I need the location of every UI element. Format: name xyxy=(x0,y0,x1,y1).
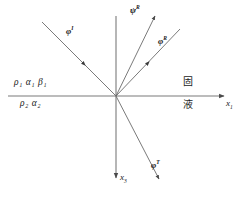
lower-medium-properties: ρ₂ α₂ xyxy=(20,99,41,109)
ray-reflected-shear-line xyxy=(116,16,155,96)
liquid-phase-label: 液 xyxy=(183,100,193,110)
ray-incident-line xyxy=(42,22,116,96)
ray-label-transmitted: φT xyxy=(151,161,160,170)
upper-medium-properties: ρ₁ α₁ β₁ xyxy=(14,78,47,88)
ray-label-reflected-shear: ψR xyxy=(130,6,140,15)
ray-reflected-longitudinal-line xyxy=(116,29,180,96)
wave-interface-diagram: φI ψR φR φT x1 x3 ρ₁ α₁ β₁ ρ₂ α₂ 固 液 xyxy=(0,0,245,201)
ray-label-incident: φI xyxy=(66,27,73,36)
solid-phase-label: 固 xyxy=(183,77,193,87)
x3-axis-label: x3 xyxy=(120,173,127,182)
ray-label-reflected-longitudinal: φR xyxy=(158,37,167,46)
x1-axis-label: x1 xyxy=(226,99,233,108)
